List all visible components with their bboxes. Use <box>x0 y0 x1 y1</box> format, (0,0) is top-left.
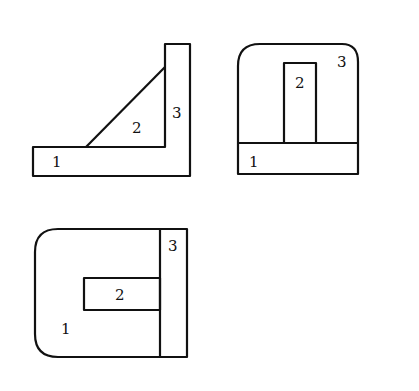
front-view: 1 2 3 <box>33 44 190 176</box>
three-view-drawing: 1 2 3 1 2 3 1 2 3 <box>0 0 419 391</box>
side-view: 1 2 3 <box>238 44 358 174</box>
top-label-2: 2 <box>115 286 125 304</box>
top-label-1: 1 <box>61 320 71 338</box>
side-label-1: 1 <box>249 153 259 171</box>
front-label-2: 2 <box>132 119 142 137</box>
front-label-1: 1 <box>52 153 62 171</box>
front-label-3: 3 <box>172 104 182 122</box>
front-rib-edge <box>86 67 165 147</box>
top-label-3: 3 <box>168 237 178 255</box>
side-label-3: 3 <box>337 53 347 71</box>
side-label-2: 2 <box>295 74 305 92</box>
top-outline <box>35 229 187 357</box>
top-view: 1 2 3 <box>35 229 187 357</box>
